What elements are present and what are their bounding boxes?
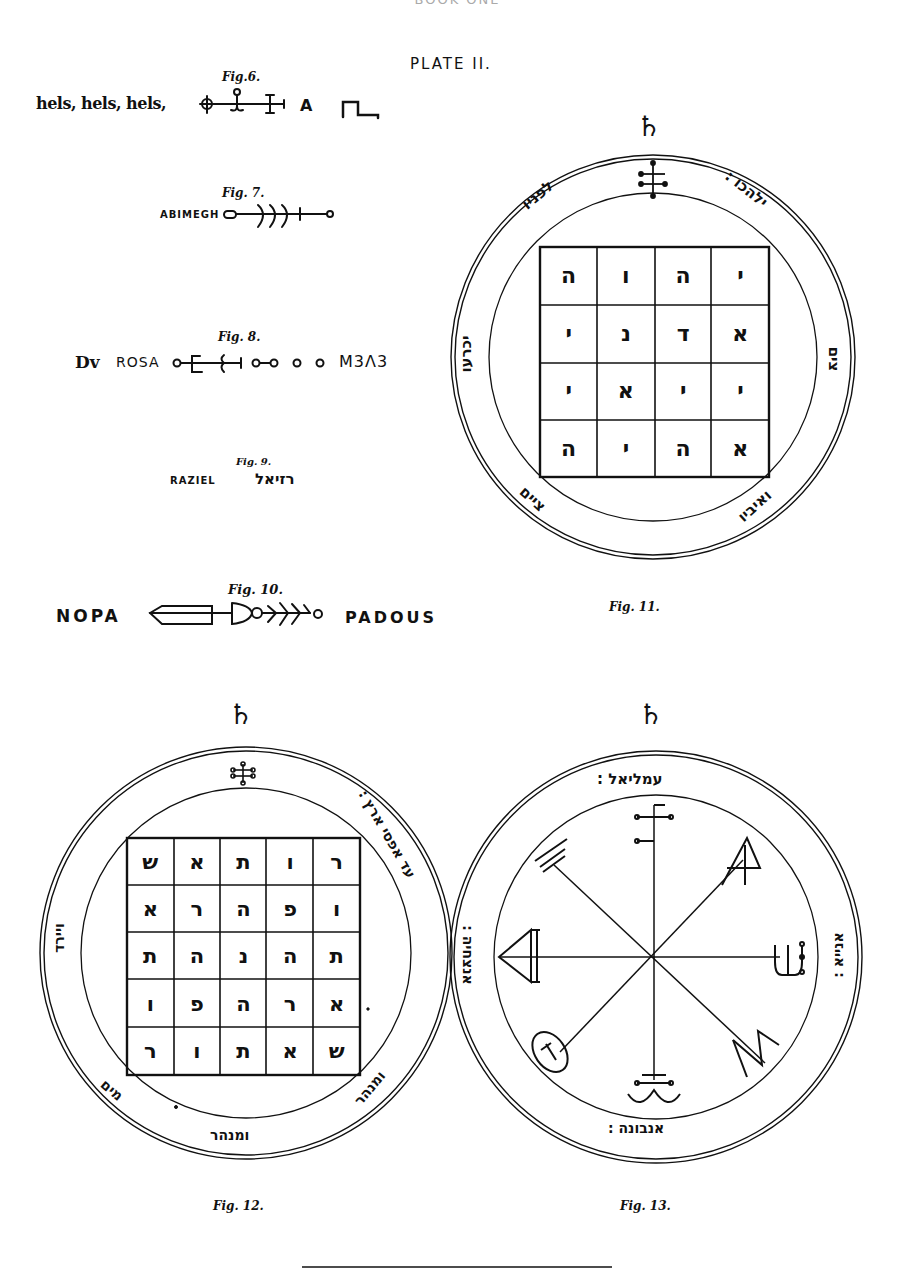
grid-cell: ת xyxy=(220,838,267,885)
fig12-label: Fig. 12. xyxy=(213,1199,264,1213)
grid-cell: י xyxy=(597,420,654,478)
fig12-ring-text-bottom: ומנהר xyxy=(210,1127,249,1143)
fig13-label: Fig. 13. xyxy=(620,1199,671,1213)
grid-cell: ה xyxy=(220,885,267,932)
grid-cell: ו xyxy=(597,247,654,305)
grid-cell: ה xyxy=(174,933,221,980)
grid-cell: ת xyxy=(313,933,360,980)
fig11-label: Fig. 11. xyxy=(609,600,660,614)
grid-cell: ה xyxy=(267,933,314,980)
grid-cell: ר xyxy=(267,980,314,1027)
grid-cell: א xyxy=(267,1028,314,1075)
grid-cell: פ xyxy=(267,885,314,932)
grid-cell: ה xyxy=(220,980,267,1027)
grid-cell: ו xyxy=(267,838,314,885)
grid-cell: ש xyxy=(127,838,174,885)
grid-cell: ה xyxy=(540,420,597,478)
fig11-saturn-icon: ♄ xyxy=(636,110,661,143)
grid-cell: נ xyxy=(220,933,267,980)
plate-drawings xyxy=(0,0,913,1282)
fig12-saturn-icon: ♄ xyxy=(228,698,253,731)
fig13-ring-text-left: אנצחיה : xyxy=(460,925,476,985)
grid-cell: א xyxy=(127,885,174,932)
grid-cell: ו xyxy=(174,1028,221,1075)
grid-cell: א xyxy=(174,838,221,885)
grid-cell: ו xyxy=(127,980,174,1027)
fig12-top-sigil-icon xyxy=(231,762,255,785)
grid-cell: א xyxy=(712,420,769,478)
fig11-magic-square: ה ו ה י י נ ד א י א י י ה י ה א xyxy=(540,247,769,477)
grid-cell: ה xyxy=(655,247,712,305)
fig6-sigil-icon xyxy=(200,89,378,118)
fig13-ring-text-top: עמליאל : xyxy=(597,770,663,788)
grid-cell: ר xyxy=(313,838,360,885)
grid-cell: י xyxy=(540,362,597,420)
fig11-ring-text-right: צים xyxy=(825,347,843,372)
grid-cell: ת xyxy=(127,933,174,980)
grid-cell: ר xyxy=(174,885,221,932)
grid-cell: י xyxy=(540,305,597,363)
fig7-sigil-icon xyxy=(224,205,333,227)
grid-cell: ה xyxy=(655,420,712,478)
grid-cell: י xyxy=(655,362,712,420)
fig12-ring-text-left: ויירד xyxy=(51,923,67,953)
grid-cell: י xyxy=(712,362,769,420)
fig11-ring-text-left: יכרעו xyxy=(457,335,475,372)
fig10-sigil-icon xyxy=(150,603,322,625)
grid-cell: ו xyxy=(313,885,360,932)
fig13-ring-text-bottom: אנבונה : xyxy=(608,1120,664,1136)
grid-cell: א xyxy=(712,305,769,363)
grid-cell: א xyxy=(313,980,360,1027)
grid-cell: ה xyxy=(540,247,597,305)
grid-cell: ר xyxy=(127,1028,174,1075)
grid-cell: ש xyxy=(313,1028,360,1075)
fig13-pentacle xyxy=(450,751,862,1163)
fig12-magic-square: ש א ת ו ר א ר ה פ ו ת ה נ ה ת ו פ ה ר א … xyxy=(127,838,360,1075)
fig13-saturn-icon: ♄ xyxy=(638,698,663,731)
fig8-sigil-icon xyxy=(174,355,324,372)
grid-cell: א xyxy=(597,362,654,420)
grid-cell: פ xyxy=(174,980,221,1027)
grid-cell: ת xyxy=(220,1028,267,1075)
fig13-ring-text-right: אנייא : xyxy=(830,932,846,977)
grid-cell: ד xyxy=(655,305,712,363)
grid-cell: י xyxy=(712,247,769,305)
grid-cell: נ xyxy=(597,305,654,363)
fig11-top-sigil-icon xyxy=(639,161,667,198)
